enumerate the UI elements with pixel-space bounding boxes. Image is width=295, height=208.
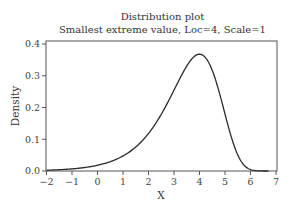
chart-canvas: 0.00.10.20.30.4 −2−101234567 X Density [0, 0, 295, 208]
density-curve [47, 54, 269, 171]
y-tick-label: 0.0 [25, 165, 40, 176]
y-tick-label: 0.3 [25, 70, 40, 81]
x-tick-label: 3 [171, 176, 177, 187]
plot-frame [46, 41, 277, 171]
x-tick-label: 1 [120, 176, 126, 187]
x-tick-label: 5 [222, 176, 228, 187]
x-tick-label: 6 [247, 176, 253, 187]
x-tick-label: −1 [65, 176, 79, 187]
x-tick-label: 4 [196, 176, 202, 187]
x-tick-label: 7 [273, 176, 279, 187]
x-tick-label: 2 [145, 176, 151, 187]
x-axis: −2−101234567 [39, 171, 279, 187]
y-axis: 0.00.10.20.30.4 [25, 38, 46, 176]
x-axis-label: X [157, 189, 165, 201]
x-tick-label: −2 [39, 176, 53, 187]
y-tick-label: 0.1 [25, 134, 40, 145]
x-tick-label: 0 [94, 176, 100, 187]
y-tick-label: 0.4 [25, 38, 40, 49]
y-axis-label: Density [9, 86, 21, 126]
y-tick-label: 0.2 [25, 102, 40, 113]
